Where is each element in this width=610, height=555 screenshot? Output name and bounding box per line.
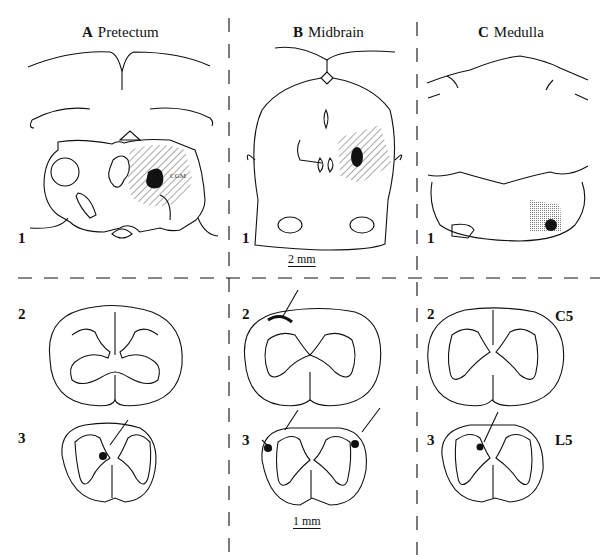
lesion-a3 <box>99 452 107 460</box>
cgm-label: CGM <box>170 172 186 180</box>
row-label-a3: 3 <box>18 430 26 447</box>
section-c1-medulla <box>427 56 588 241</box>
row-label-a1: 1 <box>18 230 26 247</box>
column-title-a: APretectum <box>82 24 159 41</box>
cord-a3 <box>62 420 156 502</box>
lesion-b3-left <box>264 444 272 452</box>
segment-label-c5: C5 <box>555 308 573 325</box>
cord-a2 <box>49 305 182 405</box>
cord-c2 <box>428 308 564 406</box>
row-label-c3: 3 <box>427 432 435 449</box>
section-a1-pretectum <box>28 52 218 238</box>
lesion-b2 <box>268 316 292 322</box>
cord-c3 <box>442 412 543 502</box>
row-label-c1: 1 <box>427 230 435 247</box>
scale-bar-2mm: 2 mm <box>288 252 316 267</box>
row-label-b3: 3 <box>242 432 250 449</box>
cord-b2 <box>244 290 380 406</box>
lesion-b3-right <box>351 440 359 448</box>
column-title-b: BMidbrain <box>293 24 364 41</box>
lesion-b1 <box>351 147 363 167</box>
row-label-c2: 2 <box>427 306 435 323</box>
row-label-a2: 2 <box>18 306 26 323</box>
hatched-region-b1 <box>338 125 392 183</box>
cord-b3 <box>262 408 380 505</box>
column-title-c: CMedulla <box>478 24 544 41</box>
scale-bar-1mm: 1 mm <box>293 514 321 529</box>
row-label-b2: 2 <box>242 306 250 323</box>
segment-label-l5: L5 <box>555 432 573 449</box>
lesion-c3 <box>477 444 484 451</box>
figure-drawing <box>0 0 610 555</box>
row-label-b1: 1 <box>242 230 250 247</box>
lesion-c1 <box>545 219 557 231</box>
